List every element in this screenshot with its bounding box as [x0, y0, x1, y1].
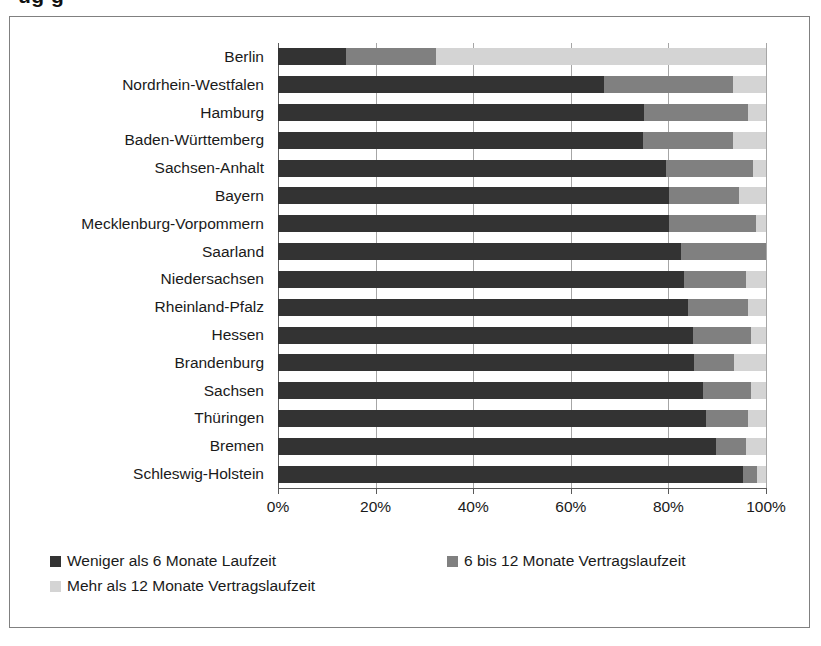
category-label: Bayern: [215, 188, 264, 204]
category-label: Schleswig-Holstein: [133, 466, 264, 482]
bar-row: [278, 160, 766, 177]
x-tick-label-0%: 0%: [267, 498, 289, 516]
bar-segment: [278, 466, 743, 483]
x-tick-label-60%: 60%: [555, 498, 586, 516]
bar-row: [278, 410, 766, 427]
bar-segment: [278, 104, 644, 121]
category-label: Hessen: [211, 327, 264, 343]
bar-segment: [436, 48, 766, 65]
bar-row: [278, 243, 766, 260]
clipped-heading-artifact: ug g: [0, 0, 821, 14]
category-label: Baden-Württemberg: [124, 132, 264, 148]
bar-series-group: [278, 43, 766, 488]
bar-segment: [278, 327, 693, 344]
legend-label-1: 6 bis 12 Monate Vertragslaufzeit: [464, 552, 685, 570]
bar-row: [278, 327, 766, 344]
bar-segment: [278, 243, 681, 260]
bar-segment: [688, 299, 748, 316]
category-label: Hamburg: [200, 105, 264, 121]
bar-segment: [746, 438, 766, 455]
bar-row: [278, 76, 766, 93]
bar-segment: [694, 354, 734, 371]
bar-segment: [748, 104, 766, 121]
bar-row: [278, 215, 766, 232]
category-label: Sachsen: [204, 383, 264, 399]
x-axis-line: [278, 488, 767, 489]
bar-row: [278, 354, 766, 371]
bar-segment: [643, 132, 733, 149]
category-label: Rheinland-Pfalz: [155, 299, 264, 315]
x-tick-label-20%: 20%: [360, 498, 391, 516]
legend-item-2: Mehr als 12 Monate Vertragslaufzeit: [50, 577, 315, 595]
bar-segment: [278, 382, 703, 399]
legend-swatch-icon-2: [50, 581, 61, 592]
bar-segment: [278, 48, 346, 65]
bar-segment: [278, 76, 604, 93]
x-tick-label-80%: 80%: [653, 498, 684, 516]
chart-frame: BerlinNordrhein-WestfalenHamburgBaden-Wü…: [9, 16, 810, 628]
category-label: Nordrhein-Westfalen: [122, 77, 264, 93]
x-tick-label-100%: 100%: [746, 498, 786, 516]
bar-segment: [684, 271, 746, 288]
bar-segment: [604, 76, 733, 93]
x-tick-60%: [571, 488, 572, 494]
bar-segment: [748, 299, 766, 316]
bar-segment: [743, 466, 757, 483]
bar-segment: [278, 299, 688, 316]
gridline-100%: [766, 43, 767, 488]
legend-label-2: Mehr als 12 Monate Vertragslaufzeit: [67, 577, 315, 595]
x-tick-100%: [766, 488, 767, 494]
bar-segment: [716, 438, 746, 455]
bar-segment: [693, 327, 751, 344]
bar-segment: [733, 132, 766, 149]
bar-segment: [734, 354, 766, 371]
legend-row-1: Weniger als 6 Monate Laufzeit 6 bis 12 M…: [32, 552, 792, 577]
category-label: Sachsen-Anhalt: [155, 160, 264, 176]
bar-segment: [681, 243, 766, 260]
x-tick-0%: [278, 488, 279, 494]
bar-segment: [278, 215, 669, 232]
legend-item-0: Weniger als 6 Monate Laufzeit: [50, 552, 276, 570]
bar-row: [278, 466, 766, 483]
bar-segment: [733, 76, 766, 93]
category-label: Berlin: [224, 49, 264, 65]
bar-segment: [278, 438, 716, 455]
bar-segment: [706, 410, 748, 427]
bar-segment: [278, 354, 694, 371]
legend-label-0: Weniger als 6 Monate Laufzeit: [67, 552, 276, 570]
plot-area: [278, 43, 766, 488]
bar-row: [278, 382, 766, 399]
bar-row: [278, 271, 766, 288]
bar-segment: [666, 160, 753, 177]
x-tick-label-40%: 40%: [458, 498, 489, 516]
category-label: Mecklenburg-Vorpommern: [81, 216, 264, 232]
bar-segment: [746, 271, 766, 288]
legend-swatch-icon-1: [447, 556, 458, 567]
bar-segment: [703, 382, 751, 399]
category-axis: BerlinNordrhein-WestfalenHamburgBaden-Wü…: [10, 43, 272, 488]
category-label: Bremen: [210, 438, 264, 454]
bar-segment: [278, 410, 706, 427]
bar-segment: [757, 466, 766, 483]
bar-row: [278, 187, 766, 204]
bar-segment: [748, 410, 766, 427]
bar-segment: [644, 104, 748, 121]
x-tick-40%: [473, 488, 474, 494]
bar-segment: [278, 132, 643, 149]
bar-segment: [669, 215, 756, 232]
clipped-heading-text: ug g: [18, 0, 64, 8]
bar-segment: [753, 160, 766, 177]
bar-segment: [278, 160, 666, 177]
category-label: Thüringen: [194, 410, 264, 426]
chart-legend: Weniger als 6 Monate Laufzeit 6 bis 12 M…: [32, 552, 792, 602]
bar-segment: [756, 215, 766, 232]
bar-segment: [346, 48, 436, 65]
bar-segment: [739, 187, 766, 204]
bar-segment: [278, 271, 684, 288]
legend-swatch-icon-0: [50, 556, 61, 567]
category-label: Niedersachsen: [161, 271, 264, 287]
legend-item-1: 6 bis 12 Monate Vertragslaufzeit: [447, 552, 685, 570]
bar-row: [278, 104, 766, 121]
bar-row: [278, 48, 766, 65]
bar-segment: [751, 327, 766, 344]
